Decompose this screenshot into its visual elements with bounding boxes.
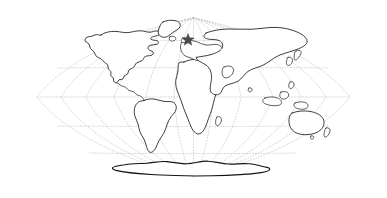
landmass-central-america[interactable] — [117, 83, 144, 101]
landmass-australia[interactable] — [289, 111, 324, 135]
landmass-japan[interactable] — [286, 57, 292, 65]
landmass-new-guinea[interactable] — [294, 102, 308, 110]
landmass-antarctica[interactable] — [112, 161, 269, 176]
landmass-kamchatka[interactable] — [294, 50, 301, 60]
landmass-borneo[interactable] — [280, 92, 289, 100]
landmass-tasmania[interactable] — [310, 136, 313, 139]
landmass-greenland[interactable] — [158, 20, 180, 37]
landmass-madagascar[interactable] — [216, 117, 222, 126]
world-map-figure — [0, 0, 387, 198]
landmass-indonesia[interactable] — [263, 97, 282, 106]
landmass-north-america[interactable] — [85, 31, 160, 83]
landmass-new-zealand[interactable] — [324, 128, 330, 137]
landmass-iceland[interactable] — [169, 36, 176, 41]
landmass-sri-lanka[interactable] — [248, 88, 252, 92]
world-map-canvas[interactable] — [0, 0, 387, 198]
landmass-south-america[interactable] — [134, 99, 176, 153]
landmass-philippines[interactable] — [289, 82, 294, 89]
